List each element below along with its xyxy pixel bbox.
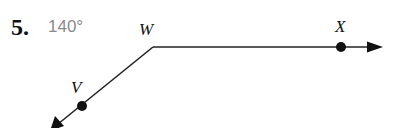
point-v — [77, 101, 87, 111]
angle-diagram: 5. 140° W X V — [0, 0, 401, 128]
label-x: X — [334, 17, 346, 36]
label-v: V — [71, 78, 84, 97]
point-x — [336, 42, 346, 52]
arrowhead-down-left-icon — [50, 116, 64, 128]
answer-text: 140° — [48, 17, 83, 36]
problem-number: 5. — [11, 14, 29, 40]
label-w: W — [139, 20, 155, 39]
arrowhead-right-icon — [367, 42, 383, 53]
